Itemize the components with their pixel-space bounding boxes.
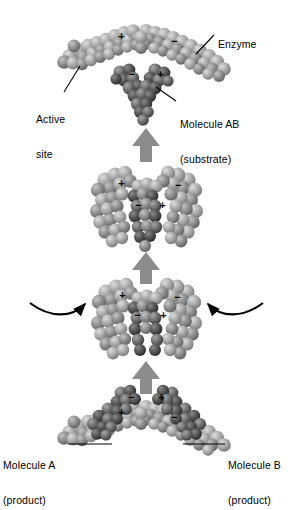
charge-minus-substrate-p2: − [133, 200, 144, 211]
charge-plus-substrate-p3: + [158, 310, 169, 321]
up-arrow-2 [132, 252, 160, 284]
label-product-b: Molecule B (product) [228, 437, 281, 510]
charge-plus-enzyme-p1: + [116, 31, 127, 42]
leader-line-substrate [156, 87, 176, 101]
panel-1-enzyme-molecule [57, 24, 231, 82]
label-substrate-line2: (substrate) [180, 154, 239, 166]
charge-plus-product-b: + [156, 392, 167, 403]
label-substrate: Molecule AB (substrate) [180, 96, 239, 188]
label-enzyme-line1: Enzyme [218, 39, 257, 51]
up-arrow-3 [132, 361, 160, 394]
label-substrate-line1: Molecule AB [180, 119, 239, 131]
label-active-site: Active site [36, 91, 65, 183]
label-product-a-line2: (product) [3, 495, 55, 507]
label-product-b-line2: (product) [228, 495, 281, 507]
leader-line-active-site [64, 66, 80, 92]
panel-4-enzyme-molecule [57, 400, 231, 456]
charge-plus-enzyme-p3: + [117, 290, 128, 301]
label-product-a-line1: Molecule A [3, 460, 55, 472]
curved-arrow-right [208, 303, 263, 314]
charge-plus-enzyme-p2: + [116, 178, 127, 189]
charge-minus-enzyme-p1: − [169, 36, 180, 47]
charge-minus-product-a: − [126, 392, 137, 403]
charge-plus-enzyme-p4: + [116, 407, 127, 418]
charge-minus-enzyme-p3: − [172, 292, 183, 303]
up-arrow-1 [132, 128, 160, 162]
charge-plus-substrate-p1: + [155, 69, 166, 80]
panel-3-complex-molecule [91, 278, 202, 360]
charge-minus-substrate-p3: − [132, 310, 143, 321]
charge-minus-enzyme-p4: − [169, 412, 180, 423]
label-active-site-line2: site [36, 149, 65, 161]
charge-plus-substrate-p2: + [157, 200, 168, 211]
label-enzyme: Enzyme [218, 16, 257, 74]
label-product-b-line1: Molecule B [228, 460, 281, 472]
label-active-site-line1: Active [36, 114, 65, 126]
charge-minus-substrate-p1: − [126, 69, 137, 80]
curved-arrow-left [30, 303, 85, 314]
label-product-a: Molecule A (product) [3, 437, 55, 510]
